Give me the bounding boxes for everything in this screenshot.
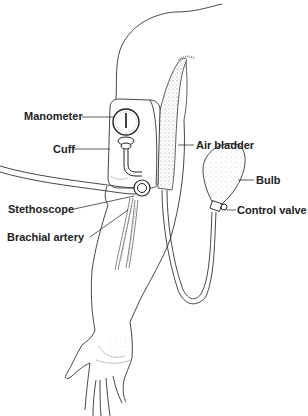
label-stethoscope: Stethoscope [8,203,74,215]
bulb [203,144,245,212]
control-valve [221,204,227,210]
air-bladder [158,56,194,190]
label-bulb: Bulb [256,174,280,186]
label-control-valve: Control valve [237,204,307,216]
brachial-artery [115,198,138,270]
inflation-tube [162,190,216,304]
label-cuff: Cuff [53,143,75,155]
label-air-bladder: Air bladder [196,139,254,151]
label-manometer: Manometer [24,110,83,122]
label-brachial-artery: Brachial artery [7,231,84,243]
